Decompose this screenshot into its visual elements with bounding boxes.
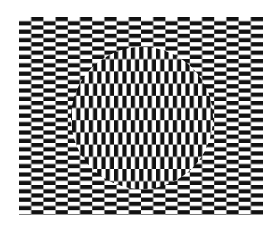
inner-brick-disc: [71, 47, 213, 189]
illusion-figure: [0, 0, 280, 232]
illusion-canvas: [0, 0, 280, 232]
